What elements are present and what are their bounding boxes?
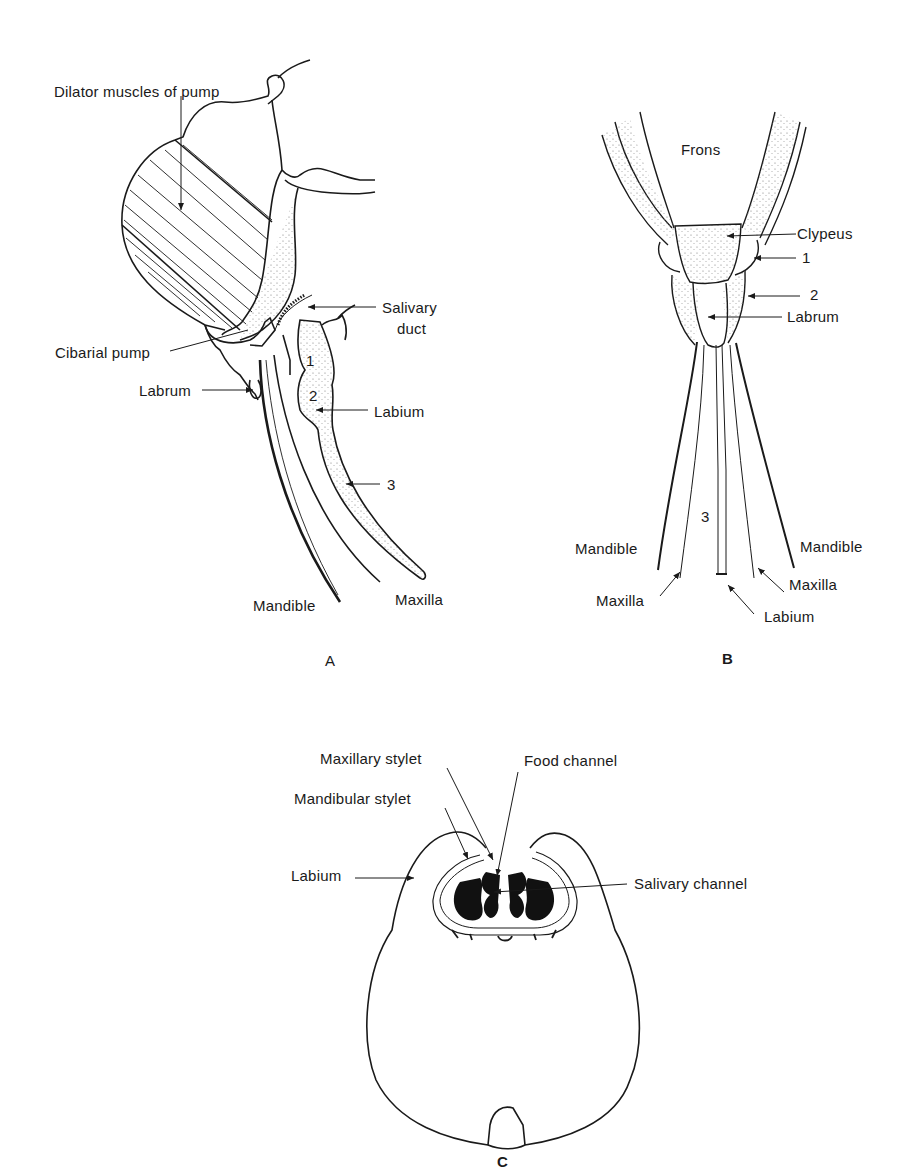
label-frons: Frons [681, 141, 720, 158]
label-mandible: Mandible [253, 597, 315, 614]
label-segment-1: 1 [306, 352, 314, 369]
panel-letter-a: A [325, 652, 335, 669]
label-maxillary-stylet: Maxillary stylet [320, 750, 422, 767]
label-salivary-duct-line1: Salivary [382, 299, 437, 316]
label-segment-3: 3 [387, 476, 395, 493]
label-segment-2: 2 [810, 286, 818, 303]
label-food-channel: Food channel [524, 752, 617, 769]
label-mandible-right: Mandible [800, 538, 862, 555]
label-maxilla-left: Maxilla [596, 592, 644, 609]
label-mandibular-stylet: Mandibular stylet [294, 790, 411, 807]
label-labium: Labium [374, 403, 424, 420]
label-labrum: Labrum [787, 308, 839, 325]
label-mandible-left: Mandible [575, 540, 637, 557]
label-salivary-channel: Salivary channel [634, 875, 747, 892]
label-maxilla-right: Maxilla [789, 576, 837, 593]
panel-letter-c: C [497, 1153, 508, 1170]
label-maxilla: Maxilla [395, 591, 443, 608]
label-dilator-muscles: Dilator muscles of pump [54, 83, 220, 100]
label-segment-3: 3 [701, 508, 709, 525]
label-salivary-duct-line2: duct [397, 320, 426, 337]
panel-a-drawing [122, 60, 425, 602]
label-segment-2: 2 [309, 387, 317, 404]
label-labium: Labium [291, 867, 341, 884]
label-cibarial-pump: Cibarial pump [55, 344, 150, 361]
label-clypeus: Clypeus [797, 225, 853, 242]
mouthparts-figure: Dilator muscles of pump Salivary duct Ci… [0, 0, 913, 1176]
label-labrum: Labrum [139, 382, 191, 399]
label-segment-1: 1 [802, 249, 810, 266]
panel-c-drawing [367, 832, 639, 1149]
label-labium: Labium [764, 608, 814, 625]
figure-artwork [0, 0, 913, 1176]
panel-letter-b: B [722, 650, 733, 667]
